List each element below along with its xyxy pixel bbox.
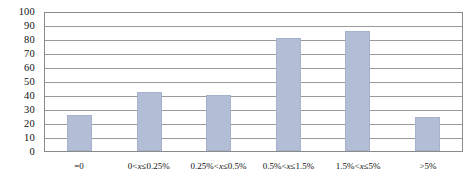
bar-chart: 100 90 80 70 60 50 40 30 20 10 0 [0, 0, 476, 189]
bar-slot [393, 13, 463, 151]
y-tick-label: 100 [1, 7, 35, 17]
bar-slot [45, 13, 115, 151]
bar-slot [115, 13, 185, 151]
bar[interactable] [137, 92, 162, 151]
x-axis: =0 0<x≤0.25% 0.25%<x≤0.5% 0.5%<x≤1.5% 1.… [44, 160, 463, 182]
bar[interactable] [206, 95, 231, 151]
y-tick-label: 80 [1, 35, 35, 45]
bar-slot [254, 13, 324, 151]
bar[interactable] [345, 31, 370, 151]
y-tick-label: 60 [1, 63, 35, 73]
bar-slot [323, 13, 393, 151]
x-tick-label: >5% [393, 160, 463, 182]
x-tick-label: 0<x≤0.25% [114, 160, 184, 182]
y-tick-label: 40 [1, 91, 35, 101]
x-tick-label: 0.5%<x≤1.5% [253, 160, 323, 182]
x-tick-label: =0 [44, 160, 114, 182]
bar[interactable] [67, 115, 92, 151]
x-tick-label: 1.5%<x≤5% [323, 160, 393, 182]
x-tick-label: 0.25%<x≤0.5% [184, 160, 254, 182]
y-tick-label: 90 [1, 21, 35, 31]
y-tick-label: 50 [1, 77, 35, 87]
bar[interactable] [276, 38, 301, 151]
y-tick-label: 10 [1, 133, 35, 143]
y-tick-label: 70 [1, 49, 35, 59]
plot-area [44, 12, 463, 152]
bar-slot [184, 13, 254, 151]
bar-series [45, 13, 462, 151]
y-tick-label: 20 [1, 119, 35, 129]
y-axis: 100 90 80 70 60 50 40 30 20 10 0 [0, 12, 40, 152]
y-tick-label: 30 [1, 105, 35, 115]
y-tick-label: 0 [1, 147, 35, 157]
bar[interactable] [415, 117, 440, 151]
